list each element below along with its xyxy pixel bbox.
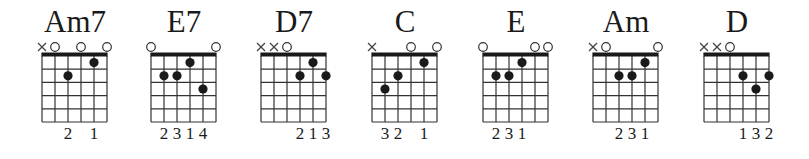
muted-string-icon xyxy=(270,43,278,51)
finger-dot xyxy=(159,71,168,80)
finger-dot xyxy=(172,71,181,80)
finger-dot xyxy=(89,58,98,67)
chord-d7: D7213 xyxy=(239,0,349,159)
muted-string-icon xyxy=(700,43,708,51)
finger-numbers: 231 xyxy=(461,124,571,144)
finger-numbers: 21 xyxy=(20,124,130,144)
open-string-icon xyxy=(147,43,156,52)
finger-number: 3 xyxy=(319,124,333,144)
finger-numbers: 132 xyxy=(682,124,792,144)
muted-string-icon xyxy=(713,43,721,51)
finger-number: 1 xyxy=(515,124,529,144)
finger-numbers: 213 xyxy=(239,124,349,144)
open-string-icon xyxy=(726,43,735,52)
open-string-icon xyxy=(531,43,540,52)
open-string-icon xyxy=(283,43,292,52)
chord-e7: E72314 xyxy=(129,0,239,159)
finger-dot xyxy=(491,71,500,80)
finger-dot xyxy=(321,71,330,80)
chord-am7: Am721 xyxy=(20,0,130,159)
finger-number: 2 xyxy=(391,124,405,144)
finger-dot xyxy=(308,58,317,67)
finger-number: 1 xyxy=(306,124,320,144)
finger-dot xyxy=(627,71,636,80)
finger-dot xyxy=(63,71,72,80)
open-string-icon xyxy=(77,43,86,52)
nut xyxy=(592,53,658,57)
open-string-icon xyxy=(433,43,442,52)
finger-number: 3 xyxy=(378,124,392,144)
finger-number: 3 xyxy=(502,124,516,144)
finger-number: 2 xyxy=(61,124,75,144)
open-string-icon xyxy=(544,43,553,52)
finger-number: 1 xyxy=(736,124,750,144)
finger-number: 2 xyxy=(157,124,171,144)
finger-dot xyxy=(751,84,760,93)
finger-numbers: 231 xyxy=(571,124,681,144)
finger-number: 2 xyxy=(762,124,776,144)
finger-numbers: 321 xyxy=(350,124,460,144)
finger-number: 2 xyxy=(293,124,307,144)
finger-number: 3 xyxy=(625,124,639,144)
finger-dot xyxy=(517,58,526,67)
muted-string-icon xyxy=(257,43,265,51)
open-string-icon xyxy=(407,43,416,52)
finger-dot xyxy=(185,58,194,67)
finger-number: 2 xyxy=(489,124,503,144)
nut xyxy=(482,53,548,57)
finger-dot xyxy=(393,71,402,80)
finger-dot xyxy=(764,71,773,80)
finger-dot xyxy=(198,84,207,93)
chord-c: C321 xyxy=(350,0,460,159)
nut xyxy=(260,53,326,57)
open-string-icon xyxy=(479,43,488,52)
finger-number: 1 xyxy=(87,124,101,144)
nut xyxy=(150,53,216,57)
nut xyxy=(371,53,437,57)
open-string-icon xyxy=(51,43,60,52)
open-string-icon xyxy=(103,43,112,52)
open-string-icon xyxy=(212,43,221,52)
finger-dot xyxy=(738,71,747,80)
finger-dot xyxy=(504,71,513,80)
chord-e: E231 xyxy=(461,0,571,159)
finger-dot xyxy=(614,71,623,80)
muted-string-icon xyxy=(368,43,376,51)
finger-number: 4 xyxy=(196,124,210,144)
muted-string-icon xyxy=(38,43,46,51)
finger-dot xyxy=(380,84,389,93)
finger-dot xyxy=(419,58,428,67)
finger-number: 2 xyxy=(612,124,626,144)
open-string-icon xyxy=(602,43,611,52)
finger-number: 3 xyxy=(749,124,763,144)
finger-dot xyxy=(295,71,304,80)
chord-d: D132 xyxy=(682,0,792,159)
muted-string-icon xyxy=(589,43,597,51)
finger-number: 1 xyxy=(183,124,197,144)
nut xyxy=(703,53,769,57)
finger-dot xyxy=(640,58,649,67)
chord-am: Am231 xyxy=(571,0,681,159)
open-string-icon xyxy=(654,43,663,52)
nut xyxy=(41,53,107,57)
finger-number: 1 xyxy=(638,124,652,144)
finger-number: 3 xyxy=(170,124,184,144)
finger-number: 1 xyxy=(417,124,431,144)
finger-numbers: 2314 xyxy=(129,124,239,144)
